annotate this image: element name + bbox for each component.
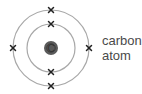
nucleus-symbol: C [47, 43, 54, 54]
nucleus: C [44, 41, 58, 55]
label-carbon: carbon [102, 33, 142, 48]
label-atom: atom [102, 48, 131, 63]
